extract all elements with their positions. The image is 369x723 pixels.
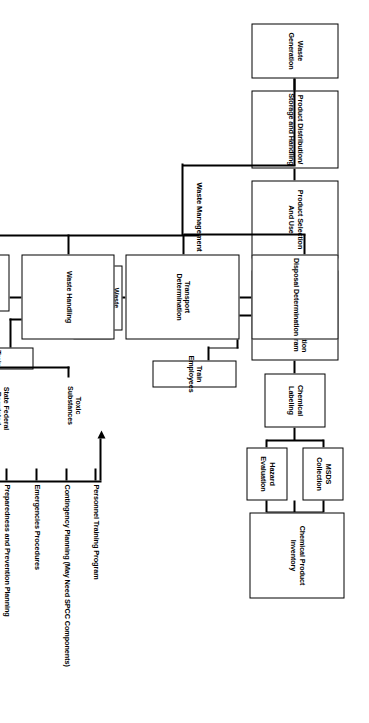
box-waste-generation[interactable]: Waste Generation bbox=[251, 23, 338, 78]
stub-transport bbox=[182, 234, 184, 254]
box-chemical-labeling[interactable]: Chemical Labeling bbox=[264, 373, 325, 427]
arrow-head-icon bbox=[97, 430, 105, 438]
connector-generation-to-waste-spine bbox=[293, 78, 295, 165]
box-label: Waste Generation bbox=[286, 25, 303, 76]
box-waste-containerization[interactable]: Waste Containerization bbox=[0, 254, 9, 311]
connector-spine-vertical bbox=[182, 164, 295, 166]
flowchart-canvas: Waste Generation Product Distribution/ S… bbox=[0, 0, 369, 723]
box-label: Product Selection And Use bbox=[286, 182, 303, 256]
tick-personnel-training bbox=[94, 468, 96, 480]
program-requirement-item: Personnel Training Program bbox=[91, 484, 100, 579]
connector-handling-containerization bbox=[9, 296, 21, 298]
bracket-designation-branches bbox=[0, 366, 69, 368]
connector-distribution-selection bbox=[293, 168, 295, 180]
connector-disposal-transport bbox=[239, 296, 251, 298]
box-label: Chemical Product Inventory bbox=[288, 514, 305, 596]
box-label: Waste Handling bbox=[63, 270, 71, 322]
tick-contingency-planning bbox=[65, 468, 67, 480]
box-transport-determination[interactable]: Transport Determination bbox=[125, 254, 239, 339]
bracket-hazard-bottom bbox=[265, 439, 267, 447]
box-product-selection-and-use[interactable]: Product Selection And Use bbox=[251, 180, 338, 258]
box-hazard-evaluation[interactable]: Hazard Evaluation bbox=[246, 447, 287, 500]
stub-disposal-v bbox=[183, 233, 305, 235]
box-disposal-determination[interactable]: Disposal Determination bbox=[251, 254, 338, 339]
bracket-msds-hazard bbox=[266, 439, 323, 441]
connector-handling-train-h bbox=[9, 318, 11, 348]
stub-disposal bbox=[303, 234, 305, 254]
box-label: Hazard Evaluation bbox=[258, 449, 275, 498]
arrow-shaft-program-requirements bbox=[99, 438, 101, 480]
bracket-waste-management bbox=[0, 234, 199, 236]
tick-emergencies-procedures bbox=[35, 468, 37, 480]
group-label-waste-management: Waste Management bbox=[194, 182, 203, 251]
box-label: Disposal Determination bbox=[290, 257, 298, 335]
bracket-program-requirements bbox=[0, 480, 101, 482]
bracket-msds-join bbox=[322, 500, 324, 512]
connector-msds-inventory bbox=[293, 500, 295, 512]
box-waste-handling[interactable]: Waste Handling bbox=[21, 254, 114, 339]
stub-handling bbox=[67, 234, 69, 254]
box-label: MSDS Collection bbox=[314, 449, 331, 498]
label-state-federal-regulated-hazardous-waste: State Federal Regulated Hazardous Waste bbox=[0, 378, 9, 438]
box-label: Transport Determination bbox=[174, 256, 191, 337]
box-chemical-product-inventory[interactable]: Chemical Product Inventory bbox=[249, 512, 344, 598]
tick-preparedness-prevention bbox=[5, 468, 7, 480]
connector-train-stub bbox=[207, 346, 209, 360]
box-msds-collection[interactable]: MSDS Collection bbox=[302, 447, 343, 500]
box-train-employees-left[interactable]: Train Employees bbox=[152, 360, 236, 387]
program-requirement-item: Contingency Planning (May Need SPCC Comp… bbox=[62, 484, 71, 666]
program-requirement-item: Emergencies Procedures bbox=[32, 484, 41, 569]
connector-employee-labeling bbox=[293, 360, 295, 373]
label-toxic-substances: Toxic Substances bbox=[65, 378, 81, 432]
bracket-msds-top bbox=[322, 439, 324, 447]
bracket-hazard-join bbox=[265, 500, 267, 512]
program-requirement-item: Preparedness and Prevention Planning bbox=[2, 484, 11, 616]
box-label: Train Employees bbox=[186, 355, 203, 392]
bracket-training-outputs bbox=[208, 347, 238, 349]
connector-spine-to-management bbox=[181, 163, 183, 235]
stub-toxic-substances bbox=[67, 366, 69, 377]
box-label: Chemical Labeling bbox=[286, 375, 303, 425]
box-label: Train Employees bbox=[0, 339, 1, 376]
connector-labeling-msds bbox=[293, 427, 295, 440]
